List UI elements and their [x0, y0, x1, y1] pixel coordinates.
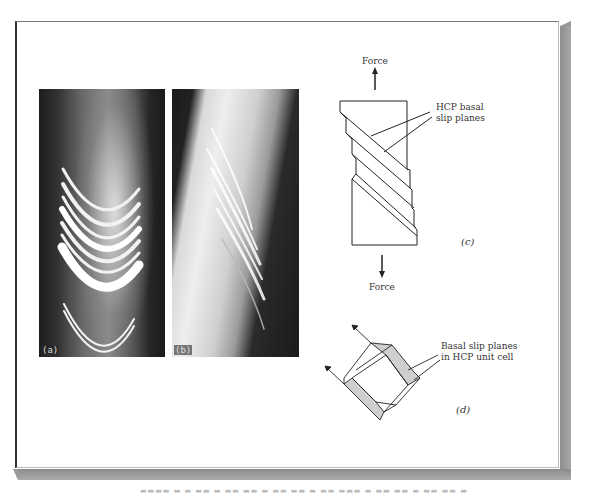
force-label-top: Force [360, 56, 390, 67]
hcp-slip-schematic-c [0, 0, 590, 495]
figure-caption-cutoff: ▬▬▬▬ ▬ ▬ ▬▬ ▬ ▬▬ ▬▬ ▬ ▬▬ ▬▬ ▬ ▬▬ ▬▬▬ ▬ ▬… [140, 487, 590, 495]
hcp-annotation-line1: HCP basal [436, 102, 484, 113]
force-label-bottom: Force [367, 282, 397, 293]
basal-annotation-line2: in HCP unit cell [441, 352, 513, 363]
hcp-annotation-line2: slip planes [436, 113, 485, 124]
panel-label-c: (c) [461, 236, 474, 247]
force-arrow-icon [352, 325, 358, 330]
panel-label-d: (d) [456, 404, 470, 415]
hcp-unit-cell-d [325, 325, 440, 420]
basal-annotation-line1: Basal slip planes [441, 341, 517, 352]
force-arrow-icon [325, 366, 331, 371]
